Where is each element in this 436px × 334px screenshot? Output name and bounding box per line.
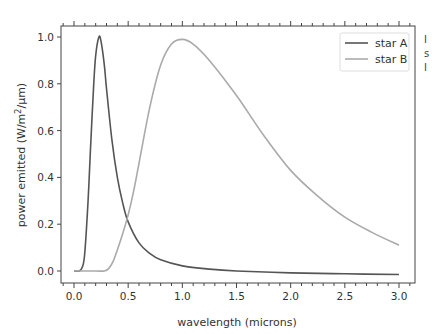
legend: star Astar B xyxy=(340,33,409,71)
y-tick-label: 0.8 xyxy=(37,78,54,90)
cut-off-text-1: I xyxy=(424,34,427,45)
y-axis: 0.00.20.40.60.81.0 xyxy=(37,31,61,277)
y-tick-label: 0.4 xyxy=(37,171,54,183)
cut-off-text-3: I xyxy=(424,62,427,73)
y-tick-label: 1.0 xyxy=(37,31,54,43)
legend-label: star B xyxy=(375,53,407,66)
legend-label: star A xyxy=(375,37,408,50)
x-tick-label: 1.5 xyxy=(228,290,245,302)
cut-off-text-2: s xyxy=(424,48,429,59)
x-axis-label: wavelength (microns) xyxy=(177,316,297,329)
x-tick-label: 3.0 xyxy=(391,290,408,302)
y-tick-label: 0.0 xyxy=(37,265,54,277)
series-line-star-A xyxy=(74,36,399,274)
y-tick-label: 0.2 xyxy=(37,218,54,230)
series-lines xyxy=(74,36,399,274)
y-axis-label: power emitted (W/m2/µm) xyxy=(14,83,28,227)
series-line-star-B xyxy=(74,39,399,271)
x-tick-label: 0.5 xyxy=(120,290,137,302)
blackbody-chart: 0.00.51.01.52.02.53.0 0.00.20.40.60.81.0… xyxy=(0,0,436,334)
x-tick-label: 1.0 xyxy=(174,290,191,302)
x-tick-label: 2.5 xyxy=(336,290,353,302)
y-tick-label: 0.6 xyxy=(37,125,54,137)
x-tick-label: 0.0 xyxy=(66,290,83,302)
x-tick-label: 2.0 xyxy=(282,290,299,302)
